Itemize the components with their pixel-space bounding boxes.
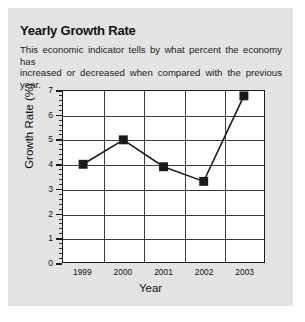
chart-description: This economic indicator tells by what pe…	[20, 44, 282, 90]
x-axis-title: Year	[8, 282, 293, 294]
y-tick-label: 0	[23, 258, 53, 268]
plot-area	[62, 90, 265, 263]
x-tick-label: 2003	[223, 267, 267, 277]
data-point-marker	[199, 177, 208, 186]
x-tick-label: 1999	[60, 267, 104, 277]
y-axis-title: Growth Rate (%)	[23, 56, 35, 196]
data-point-marker	[119, 135, 128, 144]
page-title: Yearly Growth Rate	[20, 23, 136, 38]
chart-card: Yearly Growth Rate This economic indicat…	[8, 8, 293, 306]
y-tick-major	[56, 263, 62, 265]
y-tick-label: 1	[23, 233, 53, 243]
series-markers	[79, 91, 249, 185]
description-line-2: increased or decreased when compared wit…	[20, 67, 282, 90]
data-point-marker	[159, 162, 168, 171]
x-tick-label: 2002	[182, 267, 226, 277]
description-line-1: This economic indicator tells by what pe…	[20, 44, 282, 67]
data-point-marker	[239, 91, 248, 100]
y-tick-label: 3	[23, 184, 53, 194]
y-tick-label: 6	[23, 110, 53, 120]
growth-rate-series	[63, 91, 264, 262]
data-point-marker	[79, 160, 88, 169]
y-tick-label: 2	[23, 209, 53, 219]
y-tick-label: 5	[23, 134, 53, 144]
x-tick-label: 2001	[142, 267, 186, 277]
x-tick-label: 2000	[101, 267, 145, 277]
y-tick-label: 4	[23, 159, 53, 169]
y-tick-label: 7	[23, 85, 53, 95]
